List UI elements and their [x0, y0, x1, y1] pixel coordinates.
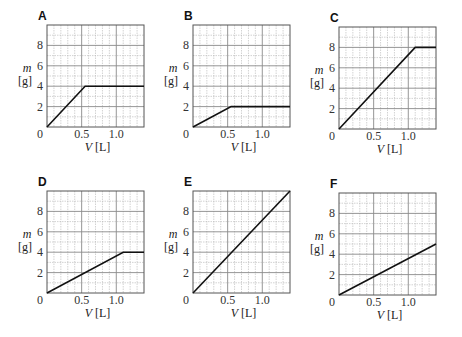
y-tick-label: 8	[183, 204, 189, 218]
panel-label: D	[38, 175, 47, 189]
y-tick-label: 2	[37, 266, 43, 280]
y-axis-label-unit: [g]	[164, 74, 178, 88]
panel-label: B	[184, 9, 193, 23]
y-tick-label: 4	[329, 247, 335, 261]
y-tick-label: 8	[37, 204, 43, 218]
y-axis-label-unit: [g]	[164, 240, 178, 254]
y-tick-label: 4	[37, 79, 43, 93]
y-axis-label-variable: m	[23, 61, 32, 75]
y-tick-label: 4	[37, 245, 43, 259]
x-tick-label: 0.5	[74, 127, 89, 141]
x-axis-label: V [L]	[85, 140, 110, 154]
origin-label: 0	[183, 293, 189, 307]
x-axis-label: V [L]	[377, 142, 402, 156]
y-tick-label: 8	[329, 206, 335, 220]
y-tick-label: 2	[329, 268, 335, 282]
x-tick-label: 1.0	[109, 127, 124, 141]
origin-label: 0	[37, 293, 43, 307]
y-axis-label-unit: [g]	[310, 242, 324, 256]
x-tick-label: 1.0	[255, 293, 270, 307]
y-tick-label: 8	[37, 38, 43, 52]
y-tick-label: 2	[329, 102, 335, 116]
panel-label: E	[184, 175, 192, 189]
y-tick-label: 4	[183, 79, 189, 93]
origin-label: 0	[329, 129, 335, 143]
y-tick-label: 6	[183, 225, 189, 239]
y-axis-label-variable: m	[315, 229, 324, 243]
x-tick-label: 0.5	[220, 293, 235, 307]
panel-label: F	[330, 177, 337, 191]
x-axis-label: V [L]	[85, 306, 110, 320]
origin-label: 0	[37, 127, 43, 141]
panel-label: C	[330, 11, 339, 25]
x-tick-label: 0.5	[74, 293, 89, 307]
y-tick-label: 6	[183, 59, 189, 73]
x-axis-label: V [L]	[231, 306, 256, 320]
x-axis-label: V [L]	[231, 140, 256, 154]
y-axis-label-unit: [g]	[18, 240, 32, 254]
chart-panel-f: F246800.51.0m[g]V [L]	[310, 177, 436, 322]
y-tick-label: 8	[183, 38, 189, 52]
x-tick-label: 1.0	[401, 129, 416, 143]
y-tick-label: 6	[329, 61, 335, 75]
y-tick-label: 6	[37, 59, 43, 73]
chart-panel-b: B246800.51.0m[g]V [L]	[164, 9, 290, 154]
y-axis-label-variable: m	[315, 63, 324, 77]
y-axis-label-variable: m	[169, 227, 178, 241]
y-tick-label: 2	[183, 100, 189, 114]
chart-panel-c: C246800.51.0m[g]V [L]	[310, 11, 436, 156]
x-tick-label: 0.5	[220, 127, 235, 141]
chart-panel-a: A246800.51.0m[g]V [L]	[18, 9, 144, 154]
y-tick-label: 4	[183, 245, 189, 259]
y-axis-label-variable: m	[23, 227, 32, 241]
chart-panel-d: D246800.51.0m[g]V [L]	[18, 175, 144, 320]
origin-label: 0	[183, 127, 189, 141]
y-axis-label-unit: [g]	[310, 76, 324, 90]
y-axis-label-variable: m	[169, 61, 178, 75]
y-axis-label-unit: [g]	[18, 74, 32, 88]
y-tick-label: 4	[329, 81, 335, 95]
x-tick-label: 0.5	[366, 295, 381, 309]
panel-label: A	[38, 9, 47, 23]
x-tick-label: 1.0	[401, 295, 416, 309]
y-tick-label: 8	[329, 40, 335, 54]
origin-label: 0	[329, 295, 335, 309]
x-tick-label: 0.5	[366, 129, 381, 143]
x-axis-label: V [L]	[377, 308, 402, 322]
y-tick-label: 2	[37, 100, 43, 114]
y-tick-label: 6	[37, 225, 43, 239]
x-tick-label: 1.0	[109, 293, 124, 307]
y-tick-label: 2	[183, 266, 189, 280]
x-tick-label: 1.0	[255, 127, 270, 141]
chart-panel-e: E246800.51.0m[g]V [L]	[164, 175, 290, 320]
chart-grid: A246800.51.0m[g]V [L]B246800.51.0m[g]V […	[0, 0, 462, 337]
y-tick-label: 6	[329, 227, 335, 241]
